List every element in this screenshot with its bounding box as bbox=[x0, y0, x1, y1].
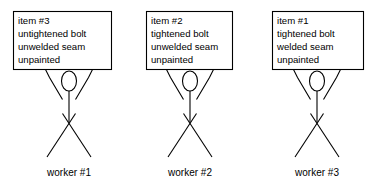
item-card-3-line-4: unpainted bbox=[277, 54, 319, 65]
item-card-2-line-1: item #2 bbox=[151, 15, 182, 26]
item-card-2-line-4: unpainted bbox=[151, 54, 193, 65]
item-card-1-line-2: untightened bolt bbox=[18, 28, 87, 39]
worker-3-left-arm bbox=[294, 70, 311, 100]
item-card-1-line-1: item #3 bbox=[18, 15, 49, 26]
item-card-2-line-2: tightened bolt bbox=[151, 28, 209, 39]
worker-unit-1: item #3 untightened bolt unwelded seam u… bbox=[14, 12, 112, 179]
item-card-2-line-3: unwelded seam bbox=[151, 41, 218, 52]
item-card-3-line-2: tightened bolt bbox=[277, 28, 335, 39]
item-card-3-line-1: item #1 bbox=[277, 15, 308, 26]
worker-3-left-leg bbox=[295, 114, 324, 158]
item-card-1-line-4: unpainted bbox=[18, 54, 60, 65]
diagram-canvas: item #3 untightened bolt unwelded seam u… bbox=[0, 0, 378, 189]
worker-2-left-leg bbox=[168, 114, 197, 158]
workers-diagram: item #3 untightened bolt unwelded seam u… bbox=[0, 0, 378, 189]
worker-2-left-arm bbox=[167, 70, 184, 100]
worker-2-right-arm bbox=[197, 70, 214, 100]
worker-3-head bbox=[310, 71, 325, 91]
worker-1-head bbox=[62, 71, 77, 91]
worker-1-caption: worker #1 bbox=[46, 167, 91, 178]
worker-1-right-arm bbox=[76, 70, 93, 100]
worker-1-left-arm bbox=[46, 70, 63, 100]
worker-2-caption: worker #2 bbox=[167, 167, 212, 178]
worker-3-right-leg bbox=[311, 114, 340, 158]
worker-1-left-leg bbox=[47, 114, 76, 158]
worker-unit-2: item #2 tightened bolt unwelded seam unp… bbox=[147, 12, 233, 179]
worker-3-right-arm bbox=[324, 70, 341, 100]
worker-3-caption: worker #3 bbox=[294, 167, 339, 178]
worker-1-right-leg bbox=[63, 114, 92, 158]
worker-2-right-leg bbox=[184, 114, 213, 158]
item-card-3-line-3: welded seam bbox=[276, 41, 334, 52]
item-card-1-line-3: unwelded seam bbox=[18, 41, 85, 52]
worker-2-head bbox=[183, 71, 198, 91]
worker-unit-3: item #1 tightened bolt welded seam unpai… bbox=[273, 12, 364, 179]
